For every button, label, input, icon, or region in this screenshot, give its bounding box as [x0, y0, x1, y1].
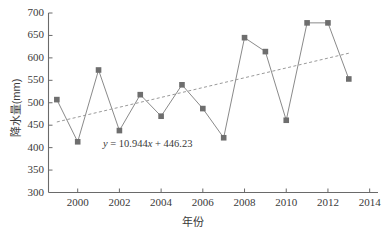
- precipitation-trend-chart: 300350400450500550600650700 200020022004…: [0, 0, 386, 234]
- y-tick-label: 350: [10, 163, 44, 175]
- x-tick-label: 2012: [312, 196, 344, 208]
- data-point-marker: [221, 135, 227, 141]
- data-point-marker: [96, 67, 102, 73]
- data-point-marker: [117, 128, 123, 134]
- equation-suffix: + 446.23: [152, 138, 192, 149]
- data-point-marker: [179, 82, 185, 88]
- x-axis-ticks: [78, 189, 370, 193]
- data-point-marker: [158, 113, 164, 119]
- x-tick-label: 2006: [187, 196, 219, 208]
- y-tick-label: 300: [10, 186, 44, 198]
- x-tick-label: 2014: [354, 196, 386, 208]
- data-point-marker: [54, 97, 60, 103]
- data-point-markers: [54, 20, 352, 145]
- y-tick-label: 700: [10, 6, 44, 18]
- x-tick-label: 2000: [62, 196, 94, 208]
- axes: [49, 13, 379, 193]
- data-point-marker: [137, 92, 143, 98]
- data-point-marker: [75, 139, 81, 145]
- data-point-marker: [263, 49, 269, 55]
- data-point-marker: [325, 20, 331, 26]
- trend-equation-annotation: y = 10.944x + 446.23: [103, 138, 192, 149]
- y-axis-ticks: [49, 13, 53, 193]
- equation-body: = 10.944: [108, 138, 148, 149]
- data-point-marker: [200, 106, 206, 112]
- x-tick-label: 2010: [270, 196, 302, 208]
- x-tick-label: 2002: [103, 196, 135, 208]
- data-point-marker: [346, 76, 352, 82]
- data-point-marker: [304, 20, 310, 26]
- data-point-marker: [242, 35, 248, 41]
- data-point-marker: [283, 117, 289, 123]
- data-series-line: [57, 23, 349, 142]
- trend-line: [57, 53, 349, 122]
- x-tick-label: 2008: [229, 196, 261, 208]
- x-tick-label: 2004: [145, 196, 177, 208]
- y-tick-label: 650: [10, 28, 44, 40]
- x-axis-title: 年份: [0, 213, 386, 229]
- y-axis-title: 降水量(mm): [7, 62, 23, 154]
